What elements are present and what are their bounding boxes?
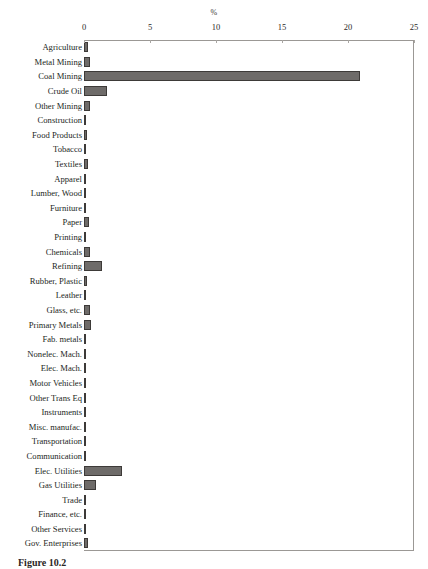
bar-row: Other Trans Eq xyxy=(0,390,428,405)
bar-track xyxy=(84,157,414,172)
bar-track xyxy=(84,142,414,157)
bar-track xyxy=(84,346,414,361)
bar-track xyxy=(84,69,414,84)
bar-track xyxy=(84,171,414,186)
bar-track xyxy=(84,390,414,405)
bar xyxy=(84,538,88,548)
category-label: Motor Vehicles xyxy=(0,378,82,388)
bar xyxy=(84,86,107,96)
bar xyxy=(84,480,96,490)
bar xyxy=(84,290,86,300)
x-tick-label: 15 xyxy=(278,22,287,32)
bar-track xyxy=(84,536,414,551)
bar xyxy=(84,188,86,198)
bar xyxy=(84,378,86,388)
category-label: Tobacco xyxy=(0,144,82,154)
bar-row: Nonelec. Mach. xyxy=(0,346,428,361)
bar-row: Other Services xyxy=(0,522,428,537)
bar-track xyxy=(84,478,414,493)
x-tick-label: 20 xyxy=(344,22,353,32)
bar xyxy=(84,144,86,154)
category-label: Other Services xyxy=(0,524,82,534)
bar xyxy=(84,57,90,67)
bar xyxy=(84,393,86,403)
bar-row: Elec. Utilities xyxy=(0,463,428,478)
bar-row: Agriculture xyxy=(0,40,428,55)
bar xyxy=(84,436,86,446)
x-tick-label: 5 xyxy=(148,22,152,32)
x-axis-title: % xyxy=(0,8,428,17)
category-label: Nonelec. Mach. xyxy=(0,349,82,359)
category-label: Gas Utilities xyxy=(0,480,82,490)
bar xyxy=(84,71,360,81)
bar-row: Paper xyxy=(0,215,428,230)
bar xyxy=(84,305,90,315)
bar xyxy=(84,349,86,359)
bar xyxy=(84,130,87,140)
bar-row: Trade xyxy=(0,492,428,507)
bar-track xyxy=(84,449,414,464)
bar-track xyxy=(84,419,414,434)
category-label: Instruments xyxy=(0,407,82,417)
x-tick-mark xyxy=(414,40,415,43)
category-label: Coal Mining xyxy=(0,71,82,81)
category-label: Elec. Mach. xyxy=(0,363,82,373)
bar-track xyxy=(84,230,414,245)
bar xyxy=(84,524,86,534)
category-label: Chemicals xyxy=(0,247,82,257)
bar-track xyxy=(84,405,414,420)
category-label: Metal Mining xyxy=(0,57,82,67)
bar-track xyxy=(84,244,414,259)
bar xyxy=(84,159,88,169)
bar-row: Furniture xyxy=(0,201,428,216)
bar-row: Apparel xyxy=(0,171,428,186)
category-label: Fab. metals xyxy=(0,334,82,344)
bar xyxy=(84,261,102,271)
x-tick-label: 10 xyxy=(212,22,221,32)
bar-track xyxy=(84,98,414,113)
bar-row: Tobacco xyxy=(0,142,428,157)
bar-row: Rubber, Plastic xyxy=(0,274,428,289)
bar-track xyxy=(84,128,414,143)
figure-container: % 0510152025 AgricultureMetal MiningCoal… xyxy=(0,0,428,569)
bar-track xyxy=(84,522,414,537)
bar xyxy=(84,334,86,344)
bar-track xyxy=(84,215,414,230)
x-tick-mark xyxy=(348,40,349,43)
bar-row: Lumber, Wood xyxy=(0,186,428,201)
bar-track xyxy=(84,492,414,507)
category-label: Lumber, Wood xyxy=(0,188,82,198)
bar xyxy=(84,495,86,505)
bar-track xyxy=(84,332,414,347)
category-label: Misc. manufac. xyxy=(0,422,82,432)
category-label: Transportation xyxy=(0,436,82,446)
bar-track xyxy=(84,84,414,99)
bar-track xyxy=(84,463,414,478)
bar xyxy=(84,509,86,519)
bar xyxy=(84,407,86,417)
bar-track xyxy=(84,113,414,128)
category-label: Paper xyxy=(0,217,82,227)
bar-row: Instruments xyxy=(0,405,428,420)
category-label: Finance, etc. xyxy=(0,509,82,519)
bar xyxy=(84,203,86,213)
bar-row: Primary Metals xyxy=(0,317,428,332)
bar-row: Gas Utilities xyxy=(0,478,428,493)
category-label: Communication xyxy=(0,451,82,461)
x-tick-mark xyxy=(216,40,217,43)
bar xyxy=(84,363,86,373)
category-label: Other Trans Eq xyxy=(0,393,82,403)
x-axis-tick-labels: 0510152025 xyxy=(0,22,428,36)
bar-track xyxy=(84,201,414,216)
bar-row: Leather xyxy=(0,288,428,303)
bar-row: Chemicals xyxy=(0,244,428,259)
category-label: Other Mining xyxy=(0,101,82,111)
bar-track xyxy=(84,259,414,274)
bar-track xyxy=(84,376,414,391)
bar-row: Refining xyxy=(0,259,428,274)
bar-row: Metal Mining xyxy=(0,55,428,70)
bar xyxy=(84,232,86,242)
category-label: Apparel xyxy=(0,174,82,184)
bar-track xyxy=(84,186,414,201)
bar-track xyxy=(84,55,414,70)
